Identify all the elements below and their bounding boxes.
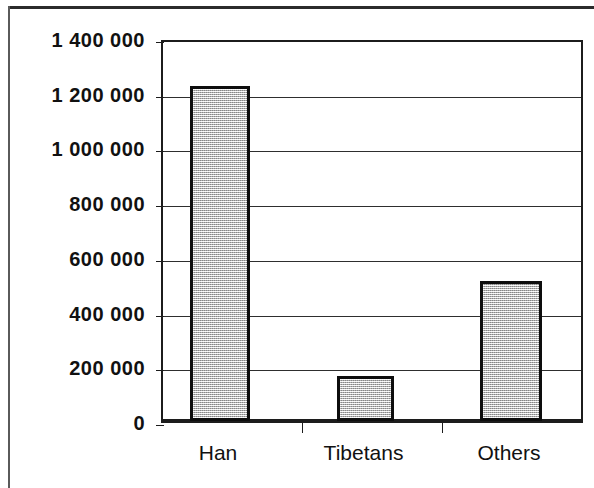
y-axis-tick [156,42,164,43]
y-axis-tick-label: 1 400 000 [52,29,145,52]
x-axis-category-label: Tibetans [324,441,404,465]
bar-tibetans [337,376,394,421]
y-axis-tick-label: 0 [133,412,145,435]
x-axis-tick [302,423,303,433]
y-axis-tick-label: 800 000 [69,193,145,216]
y-axis-tick [156,370,164,371]
y-axis-tick [156,206,164,207]
chart-figure: 0200 000400 000600 000800 0001 000 0001 … [0,0,594,488]
x-axis-tick [442,423,443,433]
y-axis: 0200 000400 000600 000800 0001 000 0001 … [0,0,155,488]
y-axis-tick-label: 1 000 000 [52,138,145,161]
bar-han [190,86,250,421]
bar-others [480,281,542,421]
plot-area [161,40,583,423]
y-axis-tick-label: 200 000 [69,357,145,380]
y-axis-tick-label: 600 000 [69,247,145,270]
x-axis-category-label: Others [477,441,540,465]
y-axis-tick-label: 400 000 [69,302,145,325]
y-axis-tick [156,425,164,426]
y-axis-tick [156,151,164,152]
x-axis-category-label: Han [199,441,238,465]
y-axis-tick [156,316,164,317]
y-axis-tick-label: 1 200 000 [52,83,145,106]
y-axis-tick [156,261,164,262]
y-axis-tick [156,97,164,98]
